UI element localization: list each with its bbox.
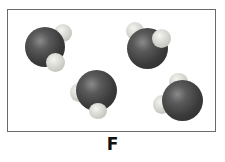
figure-label: F: [0, 134, 225, 154]
hydrogen-atom: [152, 29, 171, 48]
hydrogen-atom: [46, 53, 65, 72]
oxygen-atom: [162, 80, 203, 121]
hydrogen-atom: [89, 103, 107, 119]
